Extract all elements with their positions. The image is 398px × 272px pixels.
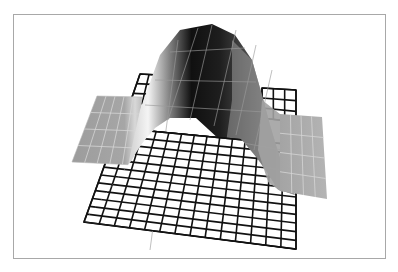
surface-plot [0,0,398,272]
